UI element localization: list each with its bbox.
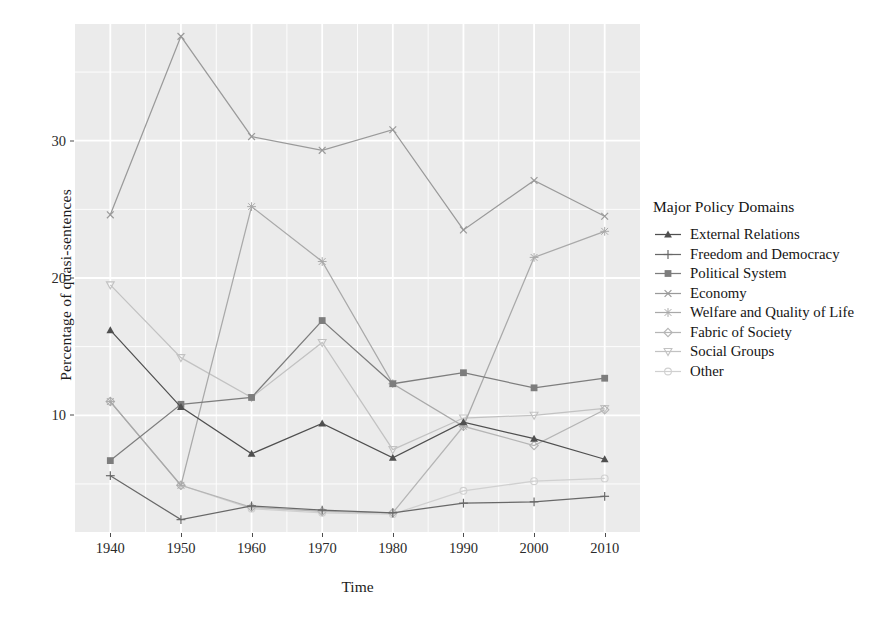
data-point [530, 497, 539, 506]
x-axis-title: Time [75, 578, 640, 596]
legend-key-icon [653, 225, 683, 244]
data-point [600, 492, 609, 501]
chart-figure: Percentage of quasi-sentences Time 10203… [0, 0, 884, 617]
data-point [601, 375, 608, 382]
legend-key-icon [653, 284, 683, 303]
x-tick-label: 2010 [565, 540, 645, 557]
y-tick-label: 30 [22, 132, 66, 149]
data-point [664, 308, 673, 317]
legend-item-social-groups[interactable]: Social Groups [653, 342, 881, 362]
data-point [319, 317, 326, 324]
x-tick-mark [252, 533, 253, 537]
legend-title: Major Policy Domains [653, 198, 881, 216]
x-tick-mark [393, 533, 394, 537]
data-point [318, 257, 327, 266]
x-tick-label: 1940 [70, 540, 150, 557]
data-point [665, 270, 672, 277]
data-point [177, 515, 186, 524]
x-tick-mark [110, 533, 111, 537]
y-tick-label: 10 [22, 407, 66, 424]
y-tick-mark [70, 140, 74, 141]
data-point [531, 384, 538, 391]
legend-item-freedom-and-democracy[interactable]: Freedom and Democracy [653, 245, 881, 265]
x-tick-mark [181, 533, 182, 537]
data-point [600, 227, 609, 236]
x-tick-label: 2000 [494, 540, 574, 557]
legend-item-label: Political System [683, 265, 787, 282]
data-point [106, 326, 114, 333]
data-point [389, 454, 397, 461]
data-point [389, 380, 396, 387]
data-point [107, 457, 114, 464]
x-tick-mark [463, 533, 464, 537]
legend-item-label: Fabric of Society [683, 324, 792, 341]
x-tick-label: 1950 [141, 540, 221, 557]
legend-item-political-system[interactable]: Political System [653, 264, 881, 284]
data-point [664, 250, 673, 259]
legend-item-external-relations[interactable]: External Relations [653, 225, 881, 245]
data-point [460, 369, 467, 376]
y-tick-mark [70, 415, 74, 416]
data-point [247, 202, 256, 211]
data-point [248, 394, 255, 401]
legend-key-icon [653, 342, 683, 361]
data-point [530, 253, 539, 262]
data-point [459, 499, 468, 508]
plot-area [75, 24, 640, 532]
legend-item-other[interactable]: Other [653, 362, 881, 382]
data-point [318, 420, 326, 427]
x-tick-label: 1990 [423, 540, 503, 557]
legend-item-label: Social Groups [683, 343, 774, 360]
y-tick-mark [70, 278, 74, 279]
legend-key-icon [653, 362, 683, 381]
legend-key-icon [653, 323, 683, 342]
x-tick-mark [605, 533, 606, 537]
data-point [177, 481, 186, 490]
x-tick-label: 1970 [282, 540, 362, 557]
y-tick-label: 20 [22, 270, 66, 287]
legend-item-label: Freedom and Democracy [683, 246, 840, 263]
legend-key-icon [653, 303, 683, 322]
data-point [106, 471, 115, 480]
data-point [106, 397, 115, 406]
legend-item-welfare-and-quality-of-life[interactable]: Welfare and Quality of Life [653, 303, 881, 323]
legend-items: External RelationsFreedom and DemocracyP… [653, 225, 881, 381]
legend-key-icon [653, 245, 683, 264]
legend: Major Policy Domains External RelationsF… [653, 198, 881, 381]
x-tick-label: 1960 [212, 540, 292, 557]
legend-item-label: External Relations [683, 226, 800, 243]
x-tick-mark [534, 533, 535, 537]
legend-item-label: Economy [683, 285, 747, 302]
legend-item-fabric-of-society[interactable]: Fabric of Society [653, 323, 881, 343]
legend-item-label: Welfare and Quality of Life [683, 304, 854, 321]
x-tick-label: 1980 [353, 540, 433, 557]
x-tick-mark [322, 533, 323, 537]
legend-key-icon [653, 264, 683, 283]
plot-panel [75, 24, 640, 532]
legend-item-economy[interactable]: Economy [653, 284, 881, 304]
legend-item-label: Other [683, 363, 724, 380]
